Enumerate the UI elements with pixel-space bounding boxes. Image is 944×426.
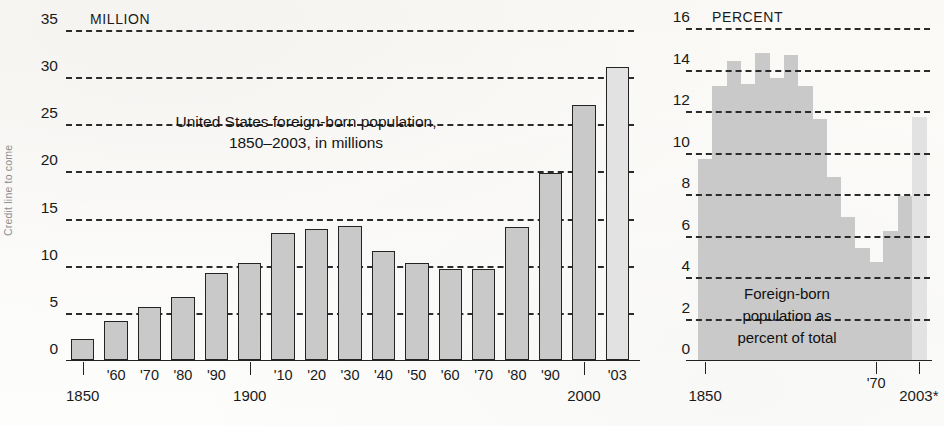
bar-90[interactable] — [539, 173, 562, 360]
gridline-y-4 — [686, 277, 930, 279]
x-tick-70 — [876, 362, 877, 374]
x-axis-label-03: '03 — [600, 368, 634, 383]
step-1850[interactable] — [698, 159, 713, 360]
x-tick-1850 — [705, 362, 706, 374]
y-axis-label-14: 14 — [662, 51, 690, 67]
bar-70[interactable] — [472, 269, 495, 360]
y-axis-label-12: 12 — [662, 92, 690, 108]
bar-1850[interactable] — [71, 339, 94, 360]
gridline-y-35 — [66, 30, 634, 32]
x-axis-label-10: '10 — [266, 368, 300, 383]
y-axis-label-10: 10 — [662, 134, 690, 150]
y-axis-label-16: 16 — [662, 9, 690, 25]
y-axis-label-5: 5 — [22, 294, 58, 310]
gridline-y-12 — [686, 111, 930, 113]
gridline-y-8 — [686, 194, 930, 196]
x-axis-label-70: '70 — [467, 368, 501, 383]
y-axis-label-10: 10 — [22, 247, 58, 263]
bar-30[interactable] — [338, 226, 361, 360]
bar-60[interactable] — [439, 269, 462, 360]
x-axis-label-1850: 1850 — [675, 388, 735, 403]
x-axis-label-60: '60 — [99, 368, 133, 383]
x-axis-label-80: '80 — [500, 368, 534, 383]
step-1980[interactable] — [883, 231, 898, 360]
y-axis-label-20: 20 — [22, 152, 58, 168]
y-axis-unit-label: MILLION — [90, 11, 150, 27]
x-axis-label-1900: 1900 — [224, 388, 276, 403]
area-annotation: Foreign-born population as percent of to… — [712, 283, 862, 348]
bar-10[interactable] — [271, 233, 294, 360]
x-tick-2000 — [584, 362, 585, 375]
y-axis-label-0: 0 — [662, 341, 690, 357]
y-axis-label-35: 35 — [22, 11, 58, 27]
y-axis-label-25: 25 — [22, 105, 58, 121]
bar-20[interactable] — [305, 229, 328, 360]
y-axis-label-8: 8 — [662, 175, 690, 191]
y-axis-label-4: 4 — [662, 258, 690, 274]
x-axis-label-30: '30 — [333, 368, 367, 383]
bar-70[interactable] — [138, 307, 161, 360]
y-axis-label-30: 30 — [22, 58, 58, 74]
x-axis-label-20: '20 — [300, 368, 334, 383]
x-axis-label-90: '90 — [533, 368, 567, 383]
y-axis-label-0: 0 — [22, 341, 58, 357]
chart-title: United States foreign-born population, 1… — [156, 112, 456, 154]
bar-50[interactable] — [405, 263, 428, 360]
gridline-y-6 — [686, 236, 930, 238]
left-bar-chart: 05101520253035MILLION1850'60'70'80'90190… — [0, 0, 660, 426]
gridline-y-14 — [686, 70, 930, 72]
x-tick-1850 — [83, 362, 84, 375]
y-axis-label-15: 15 — [22, 200, 58, 216]
bar-1900[interactable] — [238, 263, 261, 360]
x-axis-line — [686, 360, 932, 361]
x-axis-label-40: '40 — [366, 368, 400, 383]
bar-90[interactable] — [205, 273, 228, 360]
figure-root: Credit line to come 05101520253035MILLIO… — [0, 0, 944, 426]
x-axis-label-70: '70 — [133, 368, 167, 383]
x-axis-line — [66, 360, 640, 361]
bar-03[interactable] — [606, 67, 629, 360]
x-axis-label-90: '90 — [199, 368, 233, 383]
bar-60[interactable] — [104, 321, 127, 360]
x-tick-2003 — [919, 362, 920, 374]
x-axis-label-2000: 2000 — [558, 388, 610, 403]
y-axis-label-6: 6 — [662, 217, 690, 233]
gridline-y-10 — [686, 153, 930, 155]
bar-40[interactable] — [372, 251, 395, 360]
x-axis-label-80: '80 — [166, 368, 200, 383]
bar-2000[interactable] — [572, 105, 595, 360]
right-area-chart: 0246810121416PERCENT1850'702003*Foreign-… — [660, 0, 944, 426]
gridline-y-16 — [686, 28, 930, 30]
gridline-y-30 — [66, 77, 634, 79]
y-axis-unit-label: PERCENT — [712, 9, 783, 25]
y-axis-label-2: 2 — [662, 300, 690, 316]
bar-80[interactable] — [171, 297, 194, 360]
bar-80[interactable] — [505, 227, 528, 360]
x-axis-label-60: '60 — [433, 368, 467, 383]
x-axis-label-1850: 1850 — [57, 388, 109, 403]
x-tick-1900 — [250, 362, 251, 375]
x-axis-label-50: '50 — [400, 368, 434, 383]
x-axis-label-2003: 2003* — [889, 388, 944, 403]
